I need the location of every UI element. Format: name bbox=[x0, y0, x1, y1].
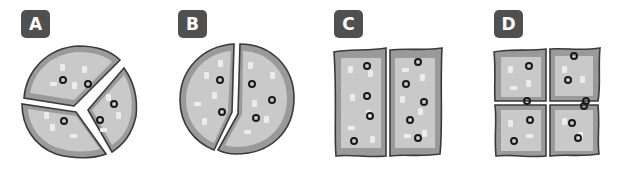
option-b-panel[interactable]: B bbox=[160, 0, 320, 169]
pizza-round-two-halves-icon bbox=[178, 42, 298, 158]
option-a-badge: A bbox=[21, 10, 50, 38]
option-d-panel[interactable]: D bbox=[480, 0, 624, 169]
pizza-square-four-quarters-icon bbox=[492, 46, 604, 160]
option-c-panel[interactable]: C bbox=[320, 0, 480, 169]
option-a-panel[interactable]: A bbox=[0, 0, 160, 169]
option-c-badge: C bbox=[334, 10, 363, 38]
option-d-badge: D bbox=[494, 10, 523, 38]
pizza-rectangle-two-halves-icon bbox=[332, 46, 446, 160]
option-b-badge: B bbox=[178, 10, 207, 38]
pizza-round-three-slices-icon bbox=[20, 42, 140, 162]
